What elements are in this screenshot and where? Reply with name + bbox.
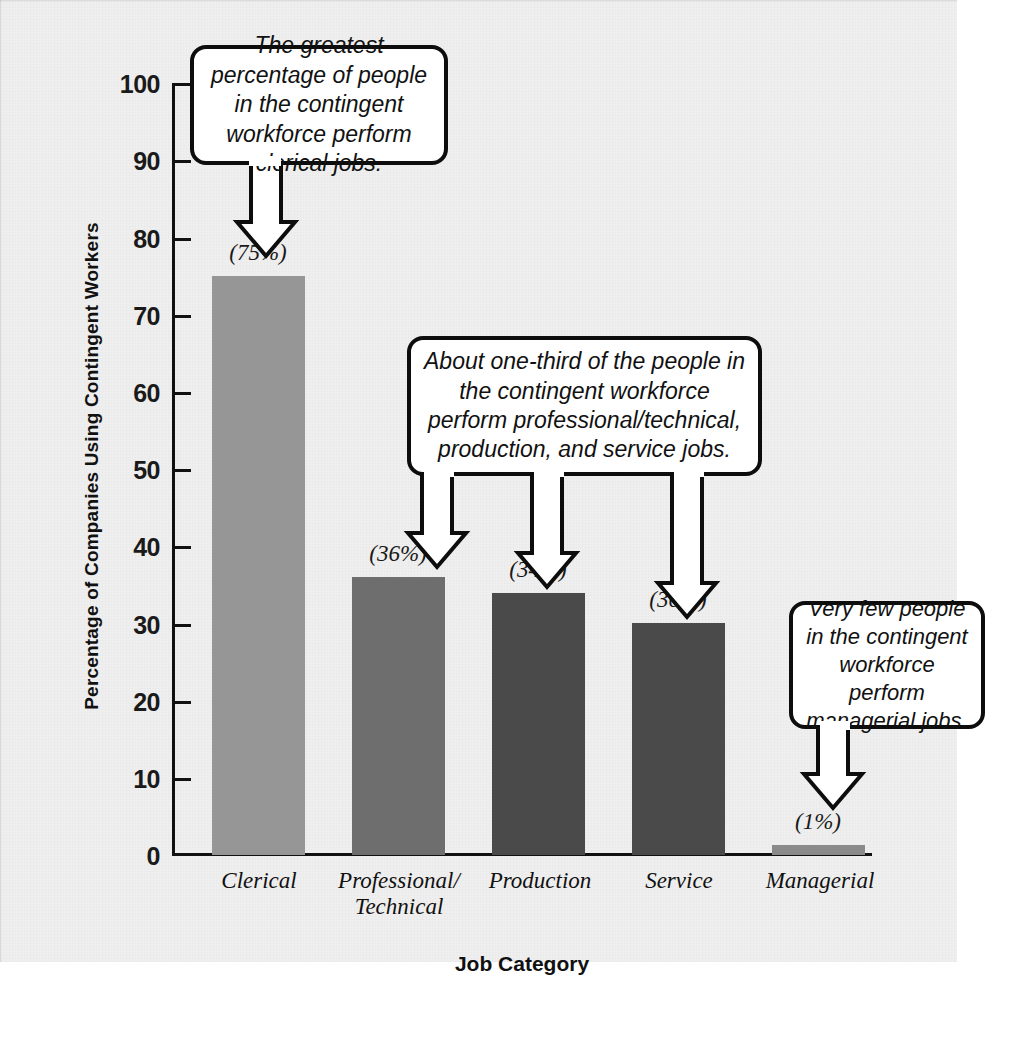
y-tick-label-10: 10 xyxy=(98,765,160,794)
bar-production xyxy=(492,593,585,855)
arrow-joint-mask-managerial xyxy=(820,721,850,730)
category-label-line: Technical xyxy=(326,894,472,920)
y-tick-30 xyxy=(174,624,191,627)
y-tick-70 xyxy=(174,315,191,318)
callout-clerical: The greatest percentage of people in the… xyxy=(190,45,448,165)
y-tick-90 xyxy=(174,160,191,163)
y-tick-label-0: 0 xyxy=(98,842,160,871)
callout-clerical-text: The greatest percentage of people in the… xyxy=(194,31,444,178)
y-tick-label-40: 40 xyxy=(98,533,160,562)
bar-clerical xyxy=(212,276,305,855)
arrow-joint-mask-production xyxy=(534,468,564,477)
arrow-joint-mask-clerical xyxy=(249,156,281,166)
bar-service xyxy=(632,623,725,855)
callout-arrow-production xyxy=(510,471,620,601)
category-label-line: Production xyxy=(473,868,607,894)
y-tick-label-30: 30 xyxy=(98,611,160,640)
chart-page: 100 90 80 70 60 50 40 30 20 10 0 Percent… xyxy=(0,0,1034,1037)
bar-chart: 100 90 80 70 60 50 40 30 20 10 0 Percent… xyxy=(0,0,957,962)
bar-managerial xyxy=(772,845,865,855)
y-tick-100 xyxy=(174,83,191,86)
y-tick-label-70: 70 xyxy=(98,302,160,331)
y-tick-label-90: 90 xyxy=(98,147,160,176)
x-category-label-production: Production xyxy=(473,868,607,894)
arrow-joint-mask-service xyxy=(674,468,704,477)
y-tick-label-20: 20 xyxy=(98,688,160,717)
callout-managerial: Very few people in the contingent workfo… xyxy=(789,601,985,729)
x-axis-title: Job Category xyxy=(172,952,872,976)
category-label-line: Clerical xyxy=(194,868,324,894)
y-tick-60 xyxy=(174,392,191,395)
x-category-label-managerial: Managerial xyxy=(752,868,888,894)
x-category-label-professional-technical: Professional/ Technical xyxy=(326,868,472,920)
x-category-label-clerical: Clerical xyxy=(194,868,324,894)
x-category-label-service: Service xyxy=(614,868,744,894)
y-tick-50 xyxy=(174,469,191,472)
arrow-joint-mask-professional-technical xyxy=(424,468,454,477)
callout-arrow-managerial xyxy=(796,724,906,824)
callout-midgroup: About one-third of the people in the con… xyxy=(407,336,762,476)
category-label-line: Managerial xyxy=(752,868,888,894)
y-tick-label-60: 60 xyxy=(98,379,160,408)
y-tick-label-100: 100 xyxy=(98,70,160,99)
y-tick-80 xyxy=(174,238,191,241)
bar-professional-technical xyxy=(352,577,445,855)
category-label-line: Professional/ xyxy=(326,868,472,894)
y-tick-40 xyxy=(174,546,191,549)
callout-midgroup-text: About one-third of the people in the con… xyxy=(411,347,758,465)
y-tick-label-80: 80 xyxy=(98,225,160,254)
y-tick-label-50: 50 xyxy=(98,456,160,485)
y-tick-10 xyxy=(174,778,191,781)
callout-arrow-professional-technical xyxy=(400,471,510,581)
category-label-line: Service xyxy=(614,868,744,894)
callout-arrow-service xyxy=(650,471,760,631)
y-axis-title: Percentage of Companies Using Contingent… xyxy=(81,186,103,746)
callout-managerial-text: Very few people in the contingent workfo… xyxy=(793,595,981,736)
y-tick-20 xyxy=(174,701,191,704)
